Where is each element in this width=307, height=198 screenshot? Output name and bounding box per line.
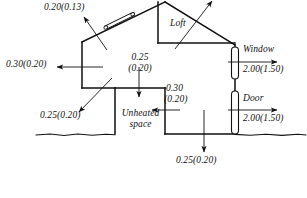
building-section-figure: 0.20(0.13) 0.30(0.20) 0.25 (0.20) 0.25(0… [0, 0, 307, 198]
label-window-value: 2.00(1.50) [243, 64, 284, 75]
label-door-value: 2.00(1.50) [243, 113, 284, 124]
label-wall-internal-line1: 0.25 [125, 52, 155, 63]
label-unheated-space-line1: Unheated [117, 108, 164, 119]
label-ground-floor: 0.25(0.20) [176, 155, 217, 166]
leader-arrows [57, 1, 277, 152]
label-floor-exposed: 0.25(0.20) [40, 110, 81, 121]
rooflight-oval [103, 12, 135, 30]
door-element [232, 91, 239, 134]
label-wall-unheated-line1: 0.30 [166, 83, 183, 94]
label-wall-internal-line2: (0.20) [122, 63, 158, 74]
label-roof-pitched: 0.20(0.13) [44, 2, 85, 13]
label-wall-unheated-line2: (0.20) [164, 94, 188, 105]
label-loft: Loft [170, 18, 186, 29]
label-door-name: Door [243, 93, 263, 104]
ground-line-right [235, 134, 306, 135]
ground-line-left [36, 134, 115, 136]
label-window-name: Window [243, 44, 274, 55]
label-wall-left: 0.30(0.20) [6, 59, 47, 70]
leader-floor-exposed [79, 78, 112, 112]
leader-roof-pitched [84, 17, 107, 50]
roof-slope-left [82, 2, 165, 42]
label-unheated-space-line2: space [117, 119, 164, 130]
window-element [232, 47, 239, 79]
